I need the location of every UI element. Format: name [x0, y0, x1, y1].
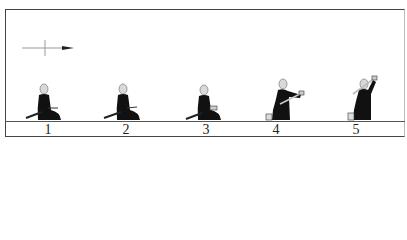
step-label-2: 2 [116, 122, 136, 138]
step-label-5: 5 [346, 122, 366, 138]
step-label-3: 3 [196, 122, 216, 138]
step-label-4: 4 [266, 122, 286, 138]
step-label-1: 1 [38, 122, 58, 138]
